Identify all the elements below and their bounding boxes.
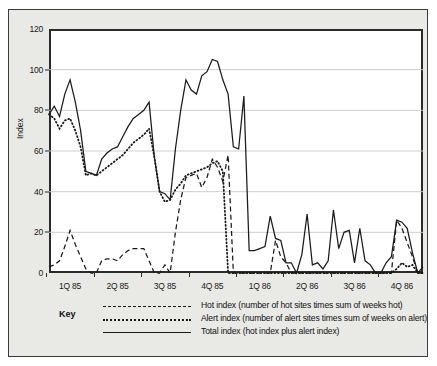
legend-item: Alert index (number of alert sites times…	[103, 313, 417, 326]
x-tick-mark	[94, 273, 95, 277]
y-tick-label: 120	[29, 24, 43, 34]
y-tick-label: 80	[34, 105, 43, 115]
series-line-1	[49, 114, 423, 273]
legend-item: Hot index (number of hot sites times sum…	[103, 300, 417, 313]
y-axis-title: Index	[15, 118, 25, 139]
series-lines	[49, 29, 423, 273]
x-tick-label: 1Q 85	[59, 281, 81, 291]
x-tick-label: 1Q 86	[249, 281, 271, 291]
y-tick-label: 0	[38, 268, 43, 278]
x-tick-label: 4Q 86	[391, 281, 413, 291]
legend-swatch-dashed	[103, 306, 191, 307]
x-tick-mark	[46, 273, 47, 277]
y-tick-mark	[45, 232, 49, 233]
legend-title: Key	[59, 309, 76, 319]
series-line-2	[49, 60, 423, 274]
x-tick-mark	[331, 273, 332, 277]
legend-rows: Hot index (number of hot sites times sum…	[23, 300, 417, 339]
legend-label: Hot index (number of hot sites times sum…	[201, 300, 403, 310]
legend-label: Total index (hot index plus alert index)	[201, 326, 339, 336]
x-tick-label: 4Q 85	[201, 281, 223, 291]
y-tick-mark	[45, 69, 49, 70]
x-tick-mark	[141, 273, 142, 277]
x-tick-label: 3Q 85	[154, 281, 176, 291]
y-tick-label: 60	[34, 146, 43, 156]
chart-figure: Index 020406080100120 1Q 852Q 853Q 854Q …	[8, 9, 428, 357]
y-tick-label: 40	[34, 187, 43, 197]
x-tick-label: 3Q 86	[343, 281, 365, 291]
y-tick-mark	[45, 191, 49, 192]
x-tick-mark	[283, 273, 284, 277]
y-tick-mark	[45, 110, 49, 111]
x-tick-mark	[378, 273, 379, 277]
series-line-0	[49, 155, 423, 273]
legend-label: Alert index (number of alert sites times…	[201, 313, 427, 323]
plot-area: 020406080100120 1Q 852Q 853Q 854Q 851Q 8…	[49, 29, 423, 273]
legend-swatch-solid	[103, 332, 191, 333]
y-tick-label: 20	[34, 227, 43, 237]
x-tick-mark	[189, 273, 190, 277]
x-tick-label: 2Q 85	[106, 281, 128, 291]
y-tick-mark	[45, 151, 49, 152]
x-tick-mark	[236, 273, 237, 277]
legend-swatch-dotted	[103, 319, 191, 321]
chart-legend: Key Hot index (number of hot sites times…	[23, 300, 417, 339]
legend-item: Total index (hot index plus alert index)	[103, 326, 417, 339]
x-tick-label: 2Q 86	[296, 281, 318, 291]
y-tick-label: 100	[29, 65, 43, 75]
